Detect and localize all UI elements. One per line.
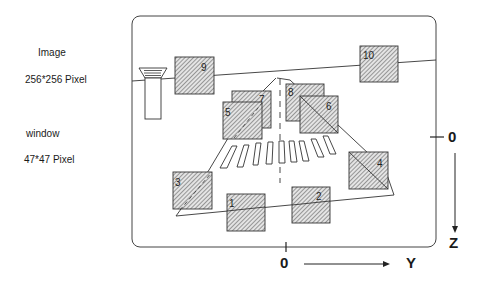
scene-diagram: 10 9 7 5 8 6 3 1 2 4 [0,0,486,288]
svg-text:9: 9 [201,62,207,73]
svg-text:2: 2 [316,191,322,202]
window-5[interactable]: 5 [223,102,262,139]
y-axis-arrow [304,261,390,267]
svg-text:6: 6 [326,101,332,112]
svg-text:5: 5 [225,107,231,118]
window-2[interactable]: 2 [292,187,330,223]
crosswalk [220,136,336,168]
svg-text:4: 4 [377,158,383,169]
window-4[interactable]: 4 [349,152,388,189]
svg-text:3: 3 [175,177,181,188]
svg-text:8: 8 [288,87,294,98]
window-1[interactable]: 1 [227,194,265,231]
bolt-icon [139,68,167,119]
window-3[interactable]: 3 [173,172,212,210]
svg-text:1: 1 [229,198,235,209]
window-10[interactable]: 10 [360,46,398,82]
z-axis-arrow [452,153,458,233]
window-9[interactable]: 9 [175,57,214,94]
window-6[interactable]: 6 [300,96,338,133]
svg-text:10: 10 [363,50,375,61]
